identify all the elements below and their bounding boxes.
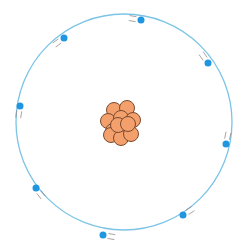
- electron: [17, 103, 24, 110]
- motion-line: [37, 194, 41, 200]
- atom-diagram: [0, 0, 248, 251]
- nucleon: [121, 117, 136, 132]
- nucleus: [101, 101, 141, 146]
- motion-line: [189, 211, 195, 215]
- electron: [33, 185, 40, 192]
- motion-line: [130, 16, 137, 17]
- motion-line: [21, 111, 22, 118]
- electron: [180, 212, 187, 219]
- motion-line: [56, 43, 62, 47]
- atom-svg: [0, 0, 248, 251]
- motion-line: [186, 206, 192, 210]
- motion-line: [107, 238, 114, 239]
- electron: [61, 35, 68, 42]
- electron: [100, 232, 107, 239]
- motion-line: [129, 20, 136, 21]
- motion-line: [108, 233, 115, 234]
- motion-line: [199, 55, 203, 61]
- electron: [138, 17, 145, 24]
- electron: [223, 141, 230, 148]
- motion-line: [41, 191, 45, 197]
- motion-line: [225, 132, 226, 139]
- electron: [205, 60, 212, 67]
